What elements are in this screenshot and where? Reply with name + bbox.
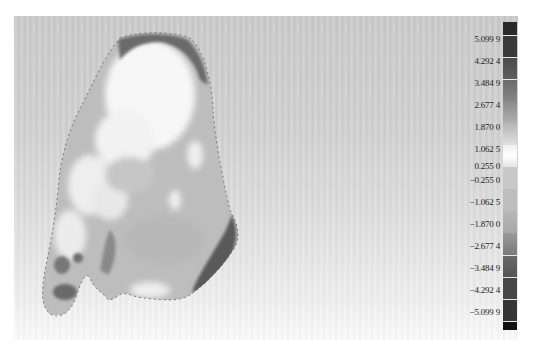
colorbar-label: −3.484 9 <box>440 263 500 273</box>
colorbar-label: 3.484 9 <box>440 78 500 88</box>
colorbar-tick <box>503 35 517 36</box>
color-segment <box>503 22 517 35</box>
colorbar-tick <box>503 79 517 80</box>
colorbar-tick <box>503 321 517 322</box>
color-segment <box>503 233 517 255</box>
colorbar-label: 5.099 9 <box>440 34 500 44</box>
color-segment <box>503 57 517 79</box>
color-segment <box>503 277 517 299</box>
colorbar-tick <box>503 277 517 278</box>
colorbar-label: 4.292 4 <box>440 56 500 66</box>
colorbar-label: −4.292 4 <box>440 285 500 295</box>
colorbar-label: 1.870 0 <box>440 122 500 132</box>
color-segment <box>503 101 517 123</box>
colorbar-label: 2.677 4 <box>440 100 500 110</box>
colorbar-label: −1.062 5 <box>440 197 500 207</box>
colorbar-tick <box>503 57 517 58</box>
colorbar-label: −0.255 0 <box>440 175 500 185</box>
color-segment <box>503 299 517 321</box>
color-segment <box>503 167 517 189</box>
color-segment <box>503 145 517 167</box>
colorbar-label: −5.099 9 <box>440 307 500 317</box>
color-segment <box>503 123 517 145</box>
colorbar-label: 1.062 5 <box>440 144 500 154</box>
color-segment <box>503 79 517 101</box>
colorbar-label: 0.255 0 <box>440 161 500 171</box>
color-segment <box>503 211 517 233</box>
color-segment <box>503 321 517 330</box>
color-segment <box>503 189 517 211</box>
color-segment <box>503 35 517 57</box>
colorbar-tick <box>503 255 517 256</box>
color-scale-bar <box>503 22 517 330</box>
colorbar-label: −2.677 4 <box>440 241 500 251</box>
colorbar-label: −1.870 0 <box>440 219 500 229</box>
colorbar-tick <box>503 299 517 300</box>
color-segment <box>503 255 517 277</box>
